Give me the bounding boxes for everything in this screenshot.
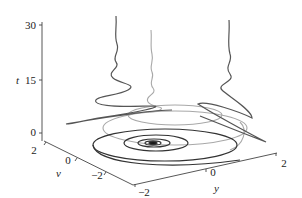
v-tick-2: 2 [31,144,37,156]
y-axis-label: y [213,182,219,194]
v-tick-neg2: −2 [91,169,103,181]
t-tick-30: 30 [25,19,37,31]
y-tick-0: 0 [210,166,216,178]
y-tick-2: 2 [281,157,287,169]
v-tick-0: 0 [65,154,71,166]
v-axis: 2 0 −2 v [31,141,133,185]
t-axis: 30 15 0 t [16,19,42,141]
v-axis-label: v [56,167,61,179]
t-tick-15: 15 [25,74,37,86]
t-axis-label: t [16,74,20,86]
right-wall-curve [198,20,266,142]
y-axis: −2 0 2 y [133,153,287,198]
3d-plot: 30 15 0 t 2 0 −2 v −2 0 2 y [0,0,302,198]
y-tick-neg2: −2 [138,186,150,198]
left-wall-curve [66,16,172,124]
dark-spiral [93,129,240,165]
t-tick-0: 0 [31,126,37,138]
gray-vertical-curve [128,30,161,116]
